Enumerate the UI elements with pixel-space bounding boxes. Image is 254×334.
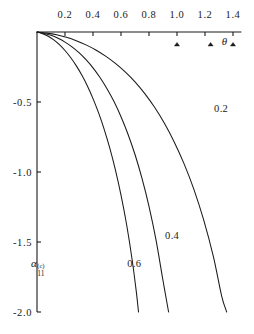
curve-label-0.2: 0.2 (214, 103, 228, 114)
axes-group (37, 32, 241, 312)
x-tick-label-5: 1.2 (198, 9, 213, 20)
y-tick-label-1: -1.0 (0, 167, 32, 178)
curve-label-0.6: 0.6 (127, 258, 141, 269)
curve-0.4 (37, 32, 169, 312)
x-tick-label-4: 1.0 (170, 9, 185, 20)
x-tick-label-6: 1.4 (226, 9, 241, 20)
curve-label-0.4: 0.4 (165, 230, 179, 241)
x-axis-title: θ (222, 35, 227, 47)
curve-0.2 (37, 32, 227, 312)
y-axis-title-indices: (c)11 (37, 263, 44, 277)
x-tick-label-0: 0.2 (58, 9, 73, 20)
figure-canvas: 0.20.40.60.81.01.21.4-0.5-1.0-1.5-2.00.6… (0, 0, 254, 334)
y-axis-title: α(c)11 (31, 258, 45, 276)
y-tick-label-3: -2.0 (0, 307, 32, 318)
x-tick-label-2: 0.6 (114, 9, 129, 20)
triangle-marker-1 (208, 42, 213, 46)
triangle-marker-0 (174, 42, 179, 46)
y-axis-title-symbol: α (31, 257, 37, 269)
curve-0.6 (37, 32, 139, 312)
curves-group (37, 32, 227, 312)
x-tick-label-3: 0.8 (142, 9, 157, 20)
x-tick-label-1: 0.4 (86, 9, 101, 20)
plot-area (0, 0, 254, 334)
triangle-marker-2 (230, 42, 235, 46)
y-tick-label-0: -0.5 (0, 97, 32, 108)
y-axis-title-subscript: 11 (37, 270, 44, 278)
y-tick-label-2: -1.5 (0, 237, 32, 248)
